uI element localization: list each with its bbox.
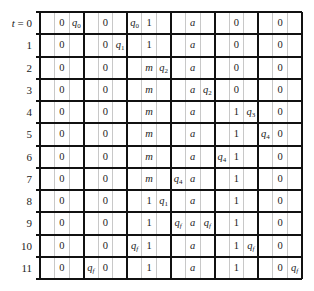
state-cell: qf (200, 212, 215, 234)
tableau-cell: 0 (55, 257, 70, 279)
tableau-cell (69, 34, 84, 56)
tableau-cell: 1 (142, 235, 157, 257)
tableau-cell (40, 168, 55, 190)
row-label: t = 0 (0, 12, 36, 34)
state-cell: qf (84, 257, 99, 279)
tableau-cell (84, 235, 99, 257)
tableau-cell (200, 146, 215, 168)
state-cell: q4 (258, 123, 273, 145)
tableau-cell: 0 (55, 190, 70, 212)
tableau-cell (287, 34, 302, 56)
tableau-cell: m (142, 146, 157, 168)
tableau-cell (69, 212, 84, 234)
tableau-cell (84, 79, 99, 101)
tableau-cell: a (185, 212, 200, 234)
tableau-cell: 0 (273, 235, 288, 257)
row-divider (36, 122, 302, 124)
tableau-cell: 1 (142, 212, 157, 234)
tableau-cell: a (185, 12, 200, 34)
tableau-cell (69, 79, 84, 101)
tableau-cell: 0 (98, 146, 113, 168)
tableau-cell (244, 12, 259, 34)
row-divider (36, 145, 302, 147)
tableau-cell: 1 (229, 190, 244, 212)
tableau-cell (40, 146, 55, 168)
tableau-cell: 0 (98, 123, 113, 145)
tableau-cell (200, 101, 215, 123)
row-label: 9 (0, 212, 36, 234)
tableau-cell (287, 235, 302, 257)
tableau-grid: 0q00q01a0000q11a0000mq2a0000maq20000ma1q… (40, 12, 302, 279)
row-divider (36, 234, 302, 236)
tableau-cell (40, 101, 55, 123)
tableau-cell (69, 146, 84, 168)
tableau-cell: 0 (98, 168, 113, 190)
row-divider (36, 278, 302, 280)
state-cell: q0 (69, 12, 84, 34)
tableau-cell (113, 146, 128, 168)
tableau-cell (244, 123, 259, 145)
tableau-cell: a (185, 79, 200, 101)
state-cell: q3 (244, 101, 259, 123)
tableau-cell: 0 (55, 235, 70, 257)
tableau-cell (69, 57, 84, 79)
tableau-cell (127, 190, 142, 212)
tableau-cell (215, 212, 230, 234)
state-cell: q4 (215, 146, 230, 168)
tableau-cell: 1 (229, 168, 244, 190)
tableau-cell (215, 123, 230, 145)
tableau-cell (200, 34, 215, 56)
tableau-cell: 0 (98, 235, 113, 257)
tableau-cell: a (185, 235, 200, 257)
row-label: 7 (0, 168, 36, 190)
tableau-cell (171, 123, 186, 145)
tableau-cell (287, 146, 302, 168)
tableau-cell (171, 101, 186, 123)
state-cell: q4 (171, 168, 186, 190)
tableau-cell (69, 168, 84, 190)
tableau-cell: 0 (55, 101, 70, 123)
tableau-cell (127, 146, 142, 168)
tableau-cell: 0 (55, 146, 70, 168)
tableau-cell: m (142, 123, 157, 145)
tableau-cell: 0 (98, 212, 113, 234)
tableau-cell: 1 (229, 235, 244, 257)
tableau-cell (113, 101, 128, 123)
tableau-cell (156, 12, 171, 34)
tableau-cell: 1 (229, 146, 244, 168)
tableau-cell (258, 101, 273, 123)
tableau-cell (40, 212, 55, 234)
tableau-cell: 0 (55, 168, 70, 190)
tableau-cell (171, 12, 186, 34)
tableau-cell (200, 123, 215, 145)
tableau-cell: m (142, 79, 157, 101)
tableau-cell (84, 34, 99, 56)
tableau-cell: a (185, 146, 200, 168)
tableau-cell: 1 (142, 190, 157, 212)
tableau-cell (40, 34, 55, 56)
tableau-cell: 0 (98, 257, 113, 279)
tableau-cell (69, 101, 84, 123)
tableau-cell (258, 212, 273, 234)
tableau-cell (40, 123, 55, 145)
tableau-cell (171, 34, 186, 56)
tableau-cell: a (185, 190, 200, 212)
tableau-cell (200, 57, 215, 79)
tableau-cell: a (185, 168, 200, 190)
tableau-cell (84, 12, 99, 34)
tableau-cell: 0 (55, 57, 70, 79)
row-divider (36, 189, 302, 191)
tableau-cell: 0 (273, 212, 288, 234)
row-divider (36, 100, 302, 102)
row-label: 2 (0, 57, 36, 79)
tableau-cell (127, 212, 142, 234)
tableau-cell: 0 (273, 257, 288, 279)
tableau-cell (127, 168, 142, 190)
row-label: 5 (0, 123, 36, 145)
tableau-cell (287, 57, 302, 79)
state-cell: qf (127, 235, 142, 257)
tableau-cell: 0 (229, 34, 244, 56)
row-divider (36, 11, 302, 13)
tableau-cell (84, 146, 99, 168)
tableau-cell: 0 (98, 190, 113, 212)
